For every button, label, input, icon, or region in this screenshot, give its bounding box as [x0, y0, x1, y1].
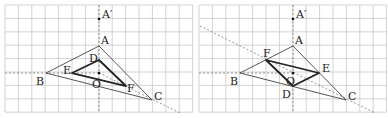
label-d: D [282, 88, 291, 101]
label-b: B [230, 75, 238, 88]
point-o [98, 72, 101, 75]
label-f: F [127, 82, 135, 95]
label-d: D [89, 52, 98, 65]
label-a: A [294, 34, 304, 47]
label-a-prime: A′ [295, 8, 307, 21]
diagonal-axis-dashed [99, 73, 180, 113]
point-o [292, 72, 295, 75]
label-o: O [286, 75, 295, 88]
point-a-prime [98, 18, 101, 21]
label-e: E [322, 62, 330, 75]
label-b: B [36, 75, 44, 88]
figure-right: A′ABCDEFO [199, 5, 387, 113]
label-f: F [263, 47, 271, 60]
point-a-prime [292, 18, 295, 21]
label-a-prime: A′ [101, 8, 113, 21]
label-c: C [154, 90, 162, 103]
label-a: A [100, 34, 110, 47]
figure-left: A′ABCDEFO [5, 5, 193, 113]
label-c: C [348, 90, 356, 103]
geometry-figures: A′ABCDEFO A′ABCDEFO [0, 0, 388, 118]
label-o: O [92, 78, 101, 91]
label-e: E [63, 64, 71, 77]
